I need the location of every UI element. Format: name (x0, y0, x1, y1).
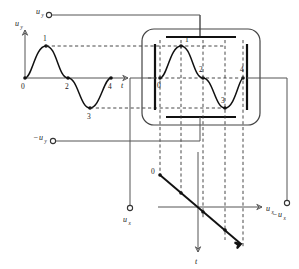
terminal-ux-negative-sub: x (283, 215, 287, 221)
input-point-4 (109, 76, 113, 80)
screen-point-label-2: 2 (199, 65, 203, 74)
terminal-uy-positive-sub: y (41, 12, 45, 18)
terminal-ux-positive-sub: x (128, 220, 132, 226)
terminal-uy-negative-sub: y (44, 138, 48, 144)
input-point-label-2: 2 (65, 82, 69, 91)
terminal-label-ux-negative: − u x (272, 210, 287, 221)
terminal-label-uy-negative: − u y (33, 133, 48, 144)
input-point-label-1: 1 (43, 34, 47, 43)
input-point-label-3: 3 (87, 112, 91, 121)
terminal-ux-positive[interactable] (127, 205, 132, 210)
wire-uy-positive (52, 15, 200, 38)
sweep-point-3 (223, 228, 227, 232)
terminal-label-uy-positive: u y (36, 7, 45, 18)
wire-uy-negative (56, 117, 200, 141)
sweep-y-axis-label: t (195, 257, 198, 266)
input-x-axis-label: t (121, 81, 124, 90)
input-point-0 (23, 76, 27, 80)
projection-dashes-horizontal (46, 46, 240, 108)
sweep-point-1 (179, 191, 183, 195)
crt-waveform-diagram: u y u y t 0 1 2 3 4 (0, 0, 299, 269)
terminal-uy-positive[interactable] (46, 12, 51, 17)
sweep-x-axis-label: u (266, 204, 270, 213)
terminal-uy-negative-label: u (39, 133, 43, 142)
sweep-origin-label: 0 (151, 167, 155, 176)
input-y-axis-label: u (15, 19, 19, 28)
input-point-2 (66, 76, 70, 80)
sweep-point-2 (201, 210, 205, 214)
terminal-uy-positive-label: u (36, 7, 40, 16)
input-point-label-0: 0 (21, 82, 25, 91)
terminal-uy-negative-prefix: − (33, 133, 38, 142)
screen-point-label-1: 1 (185, 35, 189, 44)
input-point-label-4: 4 (108, 82, 112, 91)
input-sine-plot: u y t 0 1 2 3 4 (15, 19, 128, 121)
terminal-ux-negative-label: u (278, 210, 282, 219)
screen-point-label-3: 3 (221, 96, 225, 105)
sweep-point-0 (158, 173, 162, 177)
terminal-uy-negative[interactable] (50, 138, 55, 143)
wire-ux-negative (247, 78, 287, 200)
terminal-label-ux-positive: u x (123, 215, 132, 226)
terminal-ux-negative[interactable] (284, 200, 289, 205)
terminal-ux-positive-label: u (123, 215, 127, 224)
input-y-axis-sub: y (20, 24, 24, 30)
sweep-ramp-plot: u x t 0 (151, 152, 275, 266)
